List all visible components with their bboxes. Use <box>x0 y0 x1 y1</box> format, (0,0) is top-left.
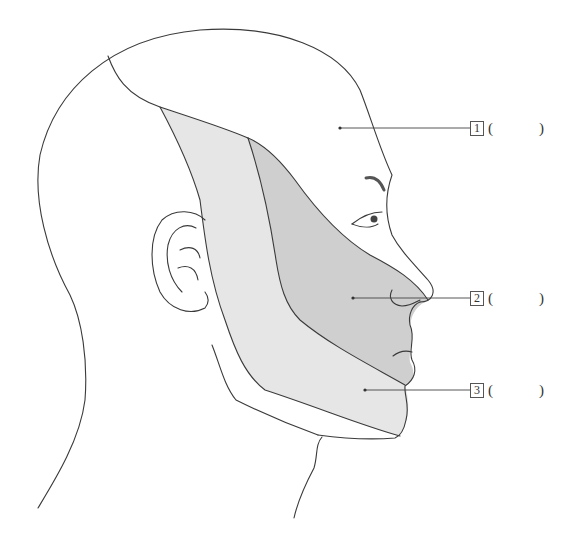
leader-dot-1 <box>338 126 341 129</box>
leader-dot-3 <box>363 388 366 391</box>
ear-inner <box>167 226 196 292</box>
leader-dot-2 <box>351 296 354 299</box>
eyebrow <box>366 178 384 191</box>
eye-upper-lid <box>352 212 382 224</box>
label-box-1: 1 <box>470 121 484 136</box>
ear-fold <box>178 248 200 280</box>
eye-iris <box>371 216 378 223</box>
label-3-close-paren: ) <box>539 382 544 398</box>
label-box-2: 2 <box>470 291 484 306</box>
label-2-open-paren: ( <box>488 290 493 306</box>
label-2-close-paren: ) <box>539 290 544 306</box>
ear-outer <box>152 212 208 312</box>
label-1-close-paren: ) <box>539 120 544 136</box>
label-3-open-paren: ( <box>488 382 493 398</box>
head-profile-diagram <box>0 0 575 550</box>
label-box-3: 3 <box>470 383 484 398</box>
label-1-open-paren: ( <box>488 120 493 136</box>
neck-front <box>294 437 322 518</box>
eye-lower-lid <box>352 224 378 227</box>
